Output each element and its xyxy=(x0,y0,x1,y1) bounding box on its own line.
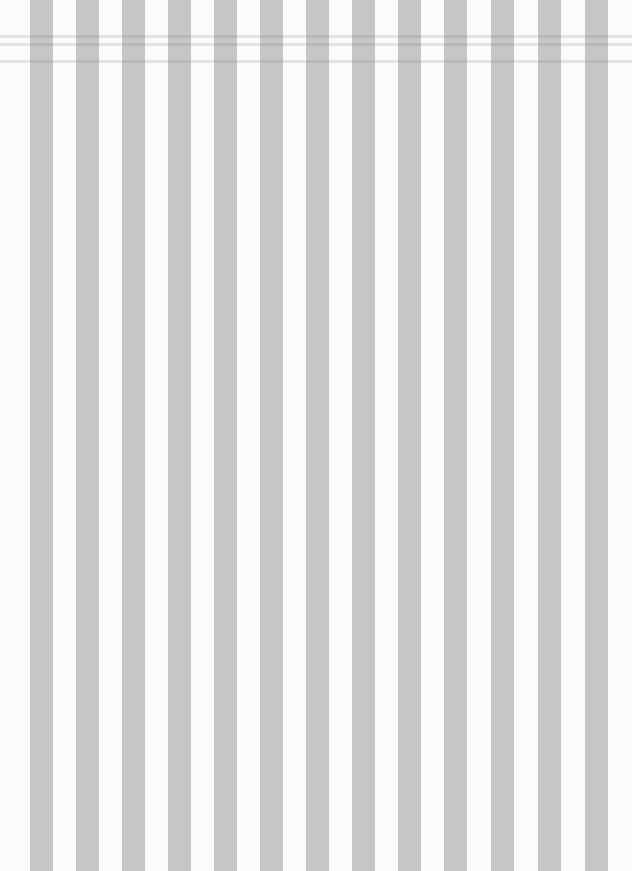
gray-stripe xyxy=(538,0,561,871)
gray-stripe xyxy=(260,0,283,871)
fold-crease xyxy=(0,35,632,38)
gray-stripe xyxy=(30,0,53,871)
gray-stripe xyxy=(214,0,237,871)
fold-crease xyxy=(0,43,632,46)
gray-stripe xyxy=(306,0,329,871)
gray-stripe xyxy=(122,0,145,871)
gray-stripe xyxy=(352,0,375,871)
gray-stripe xyxy=(398,0,421,871)
gray-stripe xyxy=(168,0,191,871)
fold-crease xyxy=(0,60,632,63)
gray-stripe xyxy=(76,0,99,871)
gray-stripe xyxy=(444,0,467,871)
gray-stripe xyxy=(585,0,608,871)
gray-stripe xyxy=(491,0,514,871)
